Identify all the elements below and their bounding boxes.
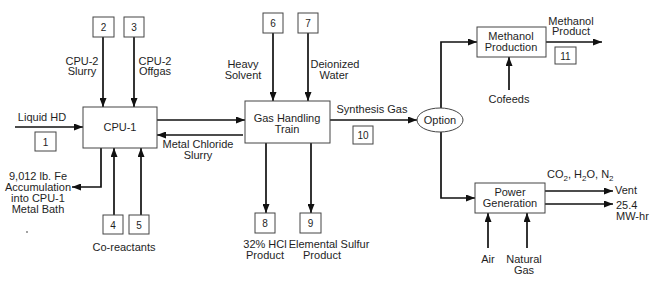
stream-badge-10: 10 bbox=[353, 126, 373, 144]
label-natural-gas-line2: Gas bbox=[514, 264, 535, 276]
label-hcl-product-line2: Product bbox=[246, 249, 284, 261]
stream-badge-2: 2 bbox=[93, 17, 114, 37]
stream-badge-7: 7 bbox=[298, 13, 318, 33]
stream-number: 9 bbox=[308, 218, 314, 229]
label-power-output-line2: MW-hr bbox=[616, 210, 649, 222]
unit-gas-handling-train: Gas Handling Train bbox=[245, 101, 330, 143]
label-sulfur-product-line2: Product bbox=[303, 249, 341, 261]
stream-number: 4 bbox=[110, 220, 116, 231]
label-metal-chloride-line2: Slurry bbox=[184, 149, 213, 161]
label-heavy-solvent-line2: Solvent bbox=[225, 69, 262, 81]
label-vent-composition: CO2, H2O, N2 bbox=[547, 168, 614, 183]
scan-speck bbox=[26, 231, 28, 233]
stream-badge-4: 4 bbox=[103, 215, 123, 234]
svg-text:Production: Production bbox=[485, 41, 538, 53]
option-label: Option bbox=[424, 114, 456, 126]
power-generation-label-line2: Generation bbox=[483, 197, 537, 209]
unit-methanol-production: Methanol Production bbox=[477, 27, 546, 57]
gas-handling-label-line2: Train bbox=[275, 123, 300, 135]
unit-option: Option bbox=[417, 108, 463, 132]
label-fe-accumulation-line4: Metal Bath bbox=[12, 203, 65, 215]
stream-number: 5 bbox=[136, 220, 142, 231]
svg-text:CPU-1: CPU-1 bbox=[103, 121, 136, 133]
cpu1-label: CPU-1 bbox=[103, 121, 136, 133]
arrow-fe-accumulation bbox=[72, 148, 101, 187]
stream-badge-1: 1 bbox=[35, 132, 56, 151]
stream-badge-11: 11 bbox=[555, 47, 576, 64]
label-cpu2-slurry-line2: Slurry bbox=[68, 65, 97, 77]
svg-text:Option: Option bbox=[424, 114, 456, 126]
process-flow-diagram: CPU-1 Gas Handling Train Option Methanol… bbox=[0, 0, 652, 285]
arrow-option-to-power bbox=[441, 132, 475, 198]
arrow-option-to-methanol bbox=[441, 42, 477, 108]
label-methanol-product-line2: Product bbox=[552, 25, 590, 37]
stream-number: 10 bbox=[357, 130, 369, 141]
label-synthesis-gas: Synthesis Gas bbox=[337, 103, 408, 115]
label-liquid-hd: Liquid HD bbox=[18, 111, 66, 123]
label-cpu2-offgas-line2: Offgas bbox=[139, 65, 172, 77]
stream-badge-3: 3 bbox=[124, 17, 144, 37]
svg-text:Generation: Generation bbox=[483, 197, 537, 209]
stream-number: 8 bbox=[262, 218, 268, 229]
stream-number: 2 bbox=[101, 22, 107, 33]
stream-number: 7 bbox=[305, 18, 311, 29]
label-deionized-water-line2: Water bbox=[320, 69, 349, 81]
svg-text:Train: Train bbox=[275, 123, 300, 135]
stream-number: 1 bbox=[43, 137, 49, 148]
unit-cpu1: CPU-1 bbox=[83, 107, 157, 148]
label-air: Air bbox=[481, 253, 495, 265]
stream-badge-5: 5 bbox=[129, 215, 149, 234]
stream-badge-8: 8 bbox=[255, 213, 275, 233]
stream-number: 11 bbox=[560, 51, 571, 62]
label-cofeeds: Cofeeds bbox=[489, 93, 530, 105]
stream-badge-6: 6 bbox=[263, 13, 283, 33]
label-co-reactants: Co-reactants bbox=[93, 241, 156, 253]
stream-number: 3 bbox=[131, 22, 137, 33]
stream-number: 6 bbox=[270, 18, 276, 29]
unit-power-generation: Power Generation bbox=[475, 183, 545, 213]
label-vent: Vent bbox=[615, 184, 637, 196]
stream-badge-9: 9 bbox=[300, 213, 321, 233]
methanol-production-label-line2: Production bbox=[485, 41, 538, 53]
